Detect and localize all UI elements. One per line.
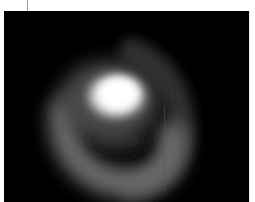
spiral-image-panel: [4, 11, 249, 202]
panel-edge: [249, 11, 250, 202]
spiral-glow-graphic: [4, 11, 249, 202]
axis-tick-mark: [27, 0, 28, 11]
